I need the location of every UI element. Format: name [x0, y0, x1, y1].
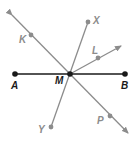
- point-X: [86, 20, 91, 25]
- point-K: [29, 33, 34, 38]
- label-L: L: [92, 45, 98, 56]
- label-M: M: [55, 75, 64, 86]
- geometry-diagram: ABMKXLYP: [0, 0, 136, 143]
- point-P: [108, 114, 113, 119]
- label-A: A: [10, 80, 18, 91]
- point-B: [122, 71, 128, 77]
- point-L: [96, 56, 101, 61]
- point-A: [12, 71, 18, 77]
- label-X: X: [92, 15, 101, 26]
- label-K: K: [19, 34, 27, 45]
- label-Y: Y: [38, 124, 46, 135]
- point-Y: [49, 125, 54, 130]
- label-B: B: [121, 80, 128, 91]
- point-M: [67, 71, 73, 77]
- label-P: P: [97, 115, 104, 126]
